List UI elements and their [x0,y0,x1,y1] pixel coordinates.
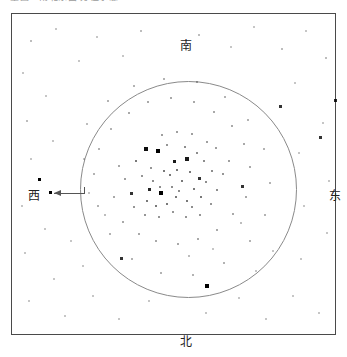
star-point [171,186,173,188]
star-point [141,175,143,177]
star-point [216,229,218,231]
star-point [193,101,195,103]
star-point [216,189,218,191]
star-point [148,188,151,191]
star-point [44,228,46,230]
star-point [205,181,207,183]
star-point [196,152,198,154]
star-point [294,82,296,84]
star-point [264,214,266,216]
star-point [272,250,274,252]
star-point [133,206,135,208]
chart-frame: 南 北 西 东 [11,13,336,335]
cardinal-label-north: 北 [178,336,194,348]
star-point [269,182,271,184]
star-point [28,300,30,302]
star-point [319,136,322,139]
star-point [147,101,149,103]
star-point [159,186,161,188]
star-point [38,178,41,181]
star-point [318,312,320,314]
star-point [160,272,162,274]
star-point [156,149,160,153]
star-point [133,85,135,87]
star-point [196,81,198,83]
star-point [263,148,265,150]
star-point [45,95,47,97]
star-point [173,160,176,163]
star-point [232,213,234,215]
star-point [300,258,302,260]
star-point [292,295,294,297]
star-point [21,205,23,207]
star-point [241,185,244,188]
star-point [144,214,146,216]
star-point [176,131,178,133]
star-point [97,205,99,207]
star-point [52,140,54,142]
star-point [238,297,240,299]
star-point [224,96,226,98]
star-point [88,192,90,194]
star-point [228,160,230,162]
star-point [198,34,200,36]
star-point [249,240,251,242]
star-point [249,166,251,168]
star-point [144,147,148,151]
star-point [240,222,242,224]
star-point [326,232,328,234]
star-point [93,173,95,175]
star-point [22,72,24,74]
star-point [24,252,26,254]
star-point [210,203,212,205]
star-point [122,55,124,57]
star-point [120,257,123,260]
star-point [110,128,112,130]
star-point [158,216,160,218]
star-point [92,295,94,297]
star-point [124,178,126,180]
star-point [255,270,257,272]
star-point [113,196,115,198]
star-point [30,40,32,42]
star-point [131,258,133,260]
star-point [197,238,199,240]
star-point [230,46,232,48]
star-point [70,240,72,242]
star-point [184,146,186,148]
star-point [253,26,255,28]
star-point [98,148,100,150]
star-point [213,111,215,113]
star-point [303,205,305,207]
cardinal-label-east: 东 [327,190,343,202]
star-point [199,214,201,216]
star-point [53,278,55,280]
star-chart-page: 星图 ‧ 南北东西 方位示意 南 北 西 东 [0,0,347,357]
star-point [191,133,193,135]
star-point [109,233,111,235]
star-point [223,262,225,264]
star-point [211,170,213,172]
star-point [215,147,217,149]
star-point [86,123,88,125]
star-point [104,214,106,216]
star-point [159,191,163,195]
star-point [191,206,193,208]
star-point [128,112,130,114]
star-point [166,144,168,146]
star-point [170,97,172,99]
star-point [265,318,267,320]
star-point [172,211,174,213]
star-point [245,196,247,198]
star-point [334,99,337,102]
cardinal-label-west: 西 [26,190,42,202]
star-point [212,248,214,250]
star-point [82,265,84,267]
star-point [185,157,189,161]
star-point [325,57,327,59]
star-point [163,78,165,80]
star-point [206,141,208,143]
pointer-target-star [49,191,52,194]
star-point [205,312,207,314]
star-point [26,120,28,122]
